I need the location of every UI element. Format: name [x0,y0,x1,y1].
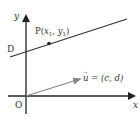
origin-label: O [15,100,22,110]
vector-u-label: u = (c, d) [83,73,123,83]
point-p-prefix: P( [35,26,44,36]
d-intercept-label: D [7,44,14,54]
line-through-p [10,19,127,57]
point-p-suffix: ) [66,26,69,36]
vector-line-diagram: y O x D P(x1, y1) → u = (c, d) [0,0,140,122]
y-axis-label: y [13,11,20,21]
point-p [47,42,51,46]
vector-u-equals: = [88,73,101,83]
vector-u-arrow [26,79,80,96]
point-p-label: P(x1, y1) [35,26,69,37]
x-axis-label: x [133,100,138,110]
vector-u-value: (c, d) [101,73,123,83]
